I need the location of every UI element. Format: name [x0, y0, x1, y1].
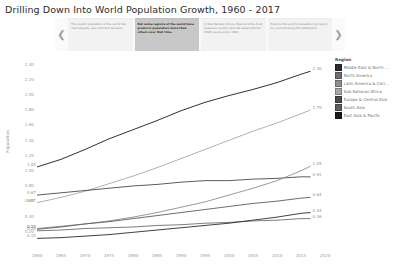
legend-item[interactable]: Middle East & North ...	[335, 64, 398, 71]
x-axis-tick-label: 1990	[176, 253, 187, 258]
series-end-label: 1.79	[313, 104, 322, 109]
story-point-4[interactable]: Explore the world's population by region…	[268, 18, 333, 51]
y-axis-tick-label: 1.60	[25, 122, 34, 127]
x-axis-tick-label: 1965	[56, 253, 67, 258]
x-axis-tick-label: 1985	[152, 253, 163, 258]
x-axis-tick-label: 2000	[224, 253, 235, 258]
x-axis-tick-label: 2005	[248, 253, 259, 258]
series-end-label: 0.91	[313, 171, 322, 176]
legend-item[interactable]: North America	[335, 72, 398, 79]
y-axis-tick-label: 1.20	[25, 152, 34, 157]
series-end-label: 1.05	[313, 161, 322, 166]
series-start-label: 0.10	[27, 233, 36, 238]
series-lines	[37, 56, 325, 246]
y-axis-tick-label: 1.00	[25, 168, 34, 173]
y-axis-tick-label: 0.80	[25, 183, 34, 188]
line-chart: Population 0.200.400.600.801.001.201.401…	[0, 51, 330, 271]
chevron-left-icon[interactable]: ❮	[55, 18, 68, 51]
x-axis-tick-label: 1995	[200, 253, 211, 258]
series-line[interactable]	[37, 110, 311, 203]
story-point-2[interactable]: But some regions of the world have grown…	[135, 18, 200, 51]
y-axis-tick-label: 2.00	[25, 92, 34, 97]
legend-swatch-icon	[335, 88, 342, 95]
series-line[interactable]	[37, 166, 311, 228]
legend-swatch-icon	[335, 72, 342, 79]
legend-swatch-icon	[335, 64, 342, 71]
legend-swatch-icon	[335, 112, 342, 119]
series-end-label: 0.36	[313, 213, 322, 218]
legend-item[interactable]: South Asia	[335, 104, 398, 111]
legend-item-label: South Asia	[344, 105, 365, 110]
legend-item-label: Middle East & North ...	[344, 65, 389, 70]
series-start-label: 0.20	[27, 225, 36, 230]
x-axis-tick-label: 2015	[296, 253, 307, 258]
series-line[interactable]	[37, 213, 311, 239]
story-point-3[interactable]: In Sub Saharan Africa, Nigeria is the mo…	[201, 18, 266, 51]
x-axis-tick-label: 1960	[32, 253, 43, 258]
series-start-label: 1.04	[27, 161, 36, 166]
y-axis-tick-label: 1.80	[25, 107, 34, 112]
story-point-list: The overall population of the world has …	[68, 18, 332, 51]
y-axis-ticks: 0.200.400.600.801.001.201.401.601.802.00…	[10, 51, 34, 246]
legend-item-label: Latin America & Cari...	[344, 81, 389, 86]
series-line[interactable]	[37, 71, 311, 167]
plot-area: 1.042.300.571.790.670.910.231.050.220.64…	[37, 56, 325, 246]
x-axis-ticks: 1960196519701975198019851990199520002005…	[0, 253, 330, 263]
series-line[interactable]	[37, 197, 311, 229]
x-axis-tick-label: 1980	[128, 253, 139, 258]
legend-item-list: Middle East & North ...North AmericaLati…	[335, 64, 398, 119]
legend-swatch-icon	[335, 96, 342, 103]
x-axis-tick-label: 2010	[272, 253, 283, 258]
legend-item[interactable]: East Asia & Pacific	[335, 112, 398, 119]
story-navigator: ❮ The overall population of the world ha…	[55, 18, 345, 51]
y-axis-tick-label: 0.40	[25, 213, 34, 218]
series-line[interactable]	[37, 177, 311, 195]
series-start-label: 0.57	[27, 197, 36, 202]
story-point-1[interactable]: The overall population of the world has …	[68, 18, 133, 51]
legend-item[interactable]: Europe & Central Asia	[335, 96, 398, 103]
y-axis-tick-label: 1.40	[25, 137, 34, 142]
legend-title: Region	[335, 57, 398, 62]
x-axis-tick-label: 1970	[80, 253, 91, 258]
legend-item-label: Europe & Central Asia	[344, 97, 388, 102]
y-axis-tick-label: 2.20	[25, 76, 34, 81]
legend-item-label: North America	[344, 73, 373, 78]
legend-item-label: East Asia & Pacific	[344, 113, 381, 118]
x-axis-tick-label: 1975	[104, 253, 115, 258]
legend-item[interactable]: Latin America & Cari...	[335, 80, 398, 87]
y-axis-tick-label: 2.40	[25, 61, 34, 66]
series-end-label: 2.30	[313, 66, 322, 71]
chevron-right-icon[interactable]: ❯	[332, 18, 345, 51]
legend-swatch-icon	[335, 104, 342, 111]
legend-item-label: Sub-Saharan Africa	[344, 89, 382, 94]
series-end-label: 0.44	[313, 207, 322, 212]
visualization-area: Population 0.200.400.600.801.001.201.401…	[0, 51, 401, 275]
x-axis-tick-label: 2020	[320, 253, 331, 258]
series-start-label: 0.67	[27, 190, 36, 195]
series-end-label: 0.64	[313, 192, 322, 197]
legend-item[interactable]: Sub-Saharan Africa	[335, 88, 398, 95]
legend-swatch-icon	[335, 80, 342, 87]
y-axis-title: Population	[5, 109, 10, 175]
region-legend: Region Middle East & North ...North Amer…	[335, 57, 398, 120]
page-title: Drilling Down Into World Population Grow…	[0, 0, 401, 18]
